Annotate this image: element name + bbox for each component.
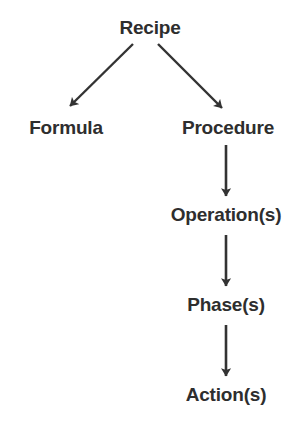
node-actions: Action(s) [186,384,267,406]
node-phases: Phase(s) [187,294,265,316]
node-operations: Operation(s) [171,204,282,226]
edge-recipe-to-procedure [158,44,222,108]
node-procedure: Procedure [182,117,274,139]
node-recipe: Recipe [119,17,180,39]
recipe-hierarchy-diagram: Recipe Formula Procedure Operation(s) Ph… [0,0,306,421]
node-formula: Formula [29,117,103,139]
edge-recipe-to-formula [70,44,133,106]
